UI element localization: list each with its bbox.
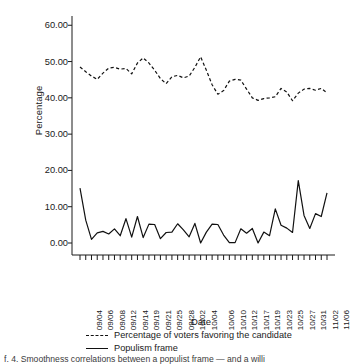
series-line-dashed	[80, 57, 327, 101]
x-tick-label: 11/06	[342, 310, 350, 330]
legend-label: Percentage of voters favoring the candid…	[114, 329, 292, 342]
series-line-solid	[80, 181, 327, 243]
x-tick-label: 11/02	[330, 310, 339, 330]
x-axis-tick-labels: 09/0409/0609/0809/1209/1409/1909/2109/25…	[0, 254, 350, 312]
figure-caption: f. 4. Smoothness correlations between a …	[4, 354, 350, 364]
legend-line-solid-icon	[86, 344, 108, 353]
legend-item[interactable]: Percentage of voters favoring the candid…	[86, 329, 292, 342]
chart-legend: Percentage of voters favoring the candid…	[86, 329, 292, 355]
x-axis-title: Date	[72, 316, 330, 327]
legend-line-dashed-icon	[86, 331, 108, 340]
